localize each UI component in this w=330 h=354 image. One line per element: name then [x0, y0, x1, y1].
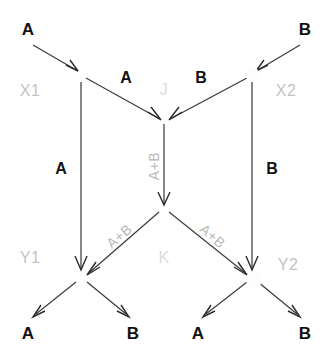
- input-label-b-top-right: B: [299, 20, 311, 39]
- node-label-y1: Y1: [20, 249, 41, 266]
- edge-label-x1-to-y1: A: [55, 160, 67, 177]
- edge-x2-to-y2: [246, 82, 258, 270]
- node-label-y2: Y2: [278, 256, 299, 273]
- edge-y2-to-output-a: [203, 282, 247, 317]
- diagram-canvas: A B A B A B A+B A+B A+B X1 X2 J K Y1 Y2 …: [0, 0, 330, 354]
- edge-x2-to-j: [169, 78, 247, 120]
- edge-label-x1-to-j: A: [120, 69, 132, 86]
- node-label-j: J: [160, 81, 169, 98]
- node-label-x1: X1: [20, 82, 41, 99]
- edge-label-x2-to-j: B: [195, 69, 207, 86]
- node-label-x2: X2: [276, 82, 297, 99]
- edge-input-b-to-x2: [256, 45, 300, 71]
- edge-y2-to-output-b: [258, 282, 300, 317]
- output-label-y1-a: A: [22, 324, 34, 343]
- edge-y1-to-output-b: [87, 282, 129, 317]
- node-dot-y2: [246, 272, 262, 288]
- node-label-k: K: [158, 249, 169, 266]
- edge-x1-to-y1: [75, 82, 87, 270]
- edge-input-a-to-x1: [33, 45, 78, 71]
- edge-y1-to-output-a: [33, 282, 76, 317]
- node-dot-x2: [245, 67, 259, 81]
- edge-label-j-to-k: A+B: [146, 152, 162, 180]
- flow-graph-svg: A B A B A B A+B A+B A+B X1 X2 J K Y1 Y2 …: [0, 0, 330, 354]
- input-label-a-top-left: A: [22, 20, 34, 39]
- output-label-y2-b: B: [299, 324, 311, 343]
- output-label-y1-b: B: [127, 324, 139, 343]
- edge-label-x2-to-y2: B: [266, 160, 278, 177]
- output-label-y2-a: A: [192, 324, 204, 343]
